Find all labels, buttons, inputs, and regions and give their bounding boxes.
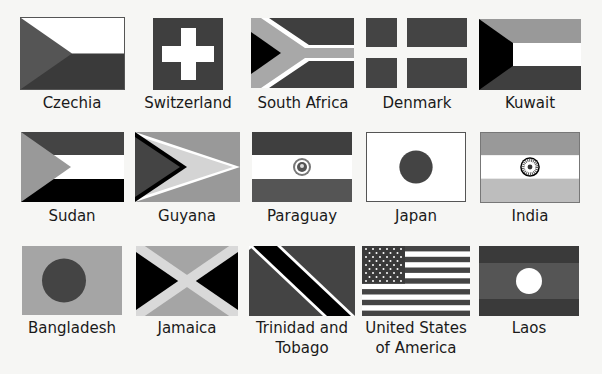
label-sudan: Sudan — [12, 206, 132, 226]
czechia-flag-graphic — [21, 18, 124, 89]
paraguay-flag-graphic — [252, 132, 352, 202]
label-trinidad-line-2: Tobago — [242, 338, 362, 358]
flag-paraguay — [252, 132, 352, 202]
label-usa-line-2: of America — [356, 338, 476, 358]
flag-india — [480, 132, 580, 203]
label-united-states-of-america: United States of America — [356, 318, 476, 358]
label-bangladesh: Bangladesh — [12, 318, 132, 338]
label-trinidad-line-1: Trinidad and — [242, 318, 362, 338]
flag-jamaica — [136, 246, 238, 316]
label-usa-line-1: United States — [356, 318, 476, 338]
flag-czechia — [20, 17, 125, 90]
label-czechia: Czechia — [12, 93, 132, 113]
trinidad-and-tobago-flag-graphic — [249, 246, 355, 316]
label-india: India — [470, 206, 590, 226]
label-kuwait: Kuwait — [470, 93, 590, 113]
usa-flag-graphic — [362, 246, 470, 316]
flag-south-africa — [251, 18, 354, 88]
jamaica-flag-graphic — [136, 246, 238, 316]
label-switzerland: Switzerland — [128, 93, 248, 113]
sudan-flag-graphic — [21, 132, 124, 202]
flag-kuwait — [479, 19, 581, 90]
label-south-africa: South Africa — [243, 93, 363, 113]
laos-flag-graphic — [479, 246, 579, 316]
south-africa-flag-graphic — [251, 18, 354, 88]
guyana-flag-graphic — [135, 132, 240, 202]
japan-flag-graphic — [367, 133, 465, 201]
label-guyana: Guyana — [127, 206, 247, 226]
label-denmark: Denmark — [357, 93, 477, 113]
flag-laos — [479, 246, 579, 316]
flag-united-states-of-america — [362, 246, 470, 316]
flag-denmark — [366, 18, 467, 88]
label-trinidad-and-tobago: Trinidad and Tobago — [242, 318, 362, 358]
denmark-flag-graphic — [366, 18, 467, 88]
switzerland-flag-graphic — [153, 18, 223, 90]
flag-sudan — [21, 132, 124, 202]
label-japan: Japan — [356, 206, 476, 226]
label-laos: Laos — [469, 318, 589, 338]
flag-trinidad-and-tobago — [249, 246, 355, 316]
bangladesh-flag-graphic — [22, 246, 122, 315]
flag-japan — [366, 132, 466, 202]
flag-guyana — [135, 132, 240, 202]
kuwait-flag-graphic — [479, 19, 581, 90]
flag-bangladesh — [22, 246, 122, 315]
label-jamaica: Jamaica — [127, 318, 247, 338]
flag-switzerland — [153, 18, 223, 90]
india-flag-graphic — [481, 133, 579, 202]
label-paraguay: Paraguay — [242, 206, 362, 226]
